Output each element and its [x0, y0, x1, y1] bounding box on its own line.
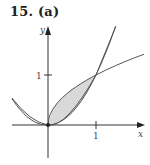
x-axis-label: x: [138, 129, 143, 139]
x-tick-label-1: 1: [93, 131, 99, 141]
y-axis-arrow-icon: [45, 26, 51, 35]
origin-point: [46, 123, 50, 127]
shaded-region-lower: [48, 75, 96, 125]
chart-plot: y x 1 1: [0, 0, 150, 165]
y-axis-label: y: [39, 25, 46, 35]
y-tick-label-1: 1: [36, 71, 42, 81]
curve-parabola-left: [12, 99, 48, 125]
x-axis-arrow-icon: [137, 122, 145, 128]
